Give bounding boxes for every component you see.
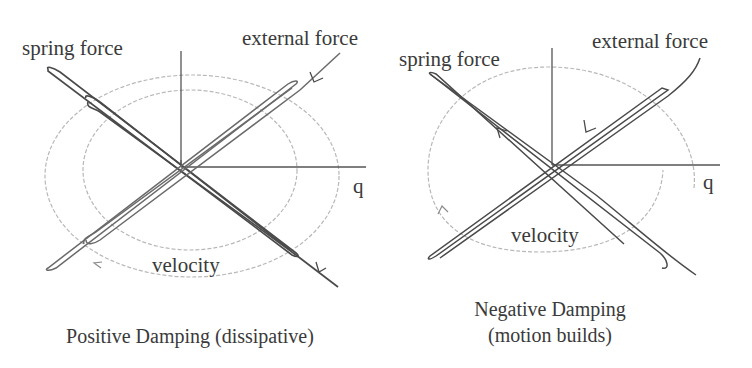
external-force-curve bbox=[46, 53, 340, 270]
velocity-label: velocity bbox=[152, 255, 220, 276]
negative-damping-caption: Negative Damping (motion builds) bbox=[440, 296, 660, 348]
velocity-label: velocity bbox=[511, 225, 579, 246]
external-force-arrow-icon bbox=[310, 72, 323, 82]
damping-diagram: spring force external force q velocity P… bbox=[0, 0, 752, 368]
positive-damping-panel bbox=[45, 51, 366, 287]
axis-q-label: q bbox=[353, 176, 364, 197]
external-force-arrow-icon bbox=[584, 120, 596, 132]
spring-force-label: spring force bbox=[22, 38, 123, 59]
axis-q-label: q bbox=[703, 172, 714, 193]
velocity-arrow-icon bbox=[94, 262, 102, 268]
spring-force-label: spring force bbox=[399, 49, 500, 70]
external-force-label: external force bbox=[592, 31, 708, 52]
positive-damping-caption: Positive Damping (dissipative) bbox=[50, 323, 330, 349]
velocity-ellipse bbox=[45, 75, 339, 277]
external-force-label: external force bbox=[242, 28, 358, 49]
caption-line: (motion builds) bbox=[440, 322, 660, 348]
caption-line: Positive Damping (dissipative) bbox=[50, 323, 330, 349]
caption-line: Negative Damping bbox=[440, 296, 660, 322]
